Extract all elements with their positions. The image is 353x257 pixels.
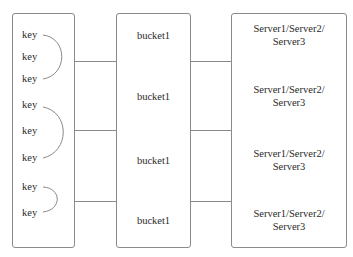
servers-box: Server1/Server2/ Server3 Server1/Server2… (231, 13, 347, 248)
server-entry: Server1/Server2/ Server3 (232, 83, 346, 109)
key-label: key (22, 51, 37, 63)
server-entry-line2: Server3 (232, 160, 346, 173)
server-entry-line2: Server3 (232, 96, 346, 109)
server-entry-line1: Server1/Server2/ (232, 22, 346, 35)
key-label: key (22, 152, 37, 164)
server-entry: Server1/Server2/ Server3 (232, 147, 346, 173)
bucket-label: bucket1 (117, 29, 190, 42)
server-entry: Server1/Server2/ Server3 (232, 22, 346, 48)
keys-box: key key key key key key key key (12, 13, 75, 248)
key-label: key (22, 125, 37, 137)
server-entry-line2: Server3 (232, 220, 346, 233)
server-entry-line2: Server3 (232, 35, 346, 48)
bucket-label: bucket1 (117, 154, 190, 167)
bucket-label: bucket1 (117, 214, 190, 227)
key-label: key (22, 181, 37, 193)
server-entry-line1: Server1/Server2/ (232, 207, 346, 220)
buckets-box: bucket1 bucket1 bucket1 bucket1 (116, 13, 191, 248)
key-label: key (22, 207, 37, 219)
bucket-label: bucket1 (117, 90, 190, 103)
server-entry: Server1/Server2/ Server3 (232, 207, 346, 233)
key-label: key (22, 99, 37, 111)
server-entry-line1: Server1/Server2/ (232, 83, 346, 96)
server-entry-line1: Server1/Server2/ (232, 147, 346, 160)
key-label: key (22, 73, 37, 85)
key-label: key (22, 29, 37, 41)
